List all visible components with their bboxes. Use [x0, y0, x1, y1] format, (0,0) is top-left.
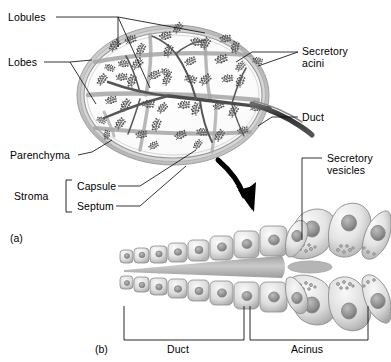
label-lobules: Lobules: [8, 11, 45, 23]
label-septum: Septum: [77, 200, 114, 212]
label-secretory-vesicles-line1: Secretory: [327, 152, 373, 165]
label-duct-bracket: Duct: [167, 343, 189, 355]
label-secretory-vesicles-line2: vesicles: [327, 164, 365, 177]
magnify-arrow: [218, 160, 256, 212]
duct-cells-lower: [120, 276, 287, 312]
label-acinus-bracket: Acinus: [291, 343, 323, 355]
label-secretory-acini-line1: Secretory: [302, 45, 348, 58]
label-capsule: Capsule: [77, 180, 116, 192]
gland-diagram: [77, 21, 312, 165]
label-duct-right: Duct: [302, 111, 324, 123]
acinus-cells: [285, 203, 391, 331]
exocrine-gland-figure: Lobules Lobes Secretory acini Duct Paren…: [0, 0, 391, 362]
panel-caption-b: (b): [95, 343, 108, 355]
label-lobes: Lobes: [8, 56, 37, 68]
label-stroma: Stroma: [14, 190, 48, 202]
duct-cells-upper: [120, 226, 287, 263]
label-secretory-acini-line2: acini: [302, 57, 324, 70]
panel-caption-a: (a): [10, 232, 23, 244]
label-parenchyma: Parenchyma: [10, 149, 70, 161]
